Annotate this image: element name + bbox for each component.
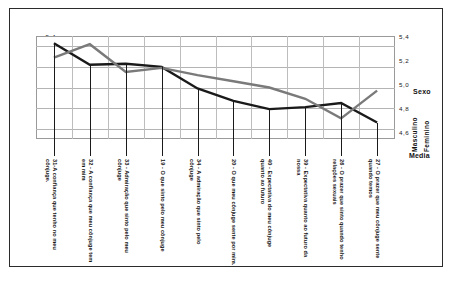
y-axis-right-tick-2: 5,0 [399,82,409,88]
category-label-5: 20 - O que meu cônjuge sente por mim. [231,159,238,267]
dropline-2 [126,64,127,156]
category-label-6: 40 - Expectativa do meu cônjuge quanto a… [260,159,274,267]
category-label-1: 32 - A confiança que meu cônjuge tem em … [80,159,94,267]
dropline-9 [377,123,378,157]
y-axis-right-tick-1: 5,2 [399,58,409,64]
category-label-0: 31-A confiança que tenho no meu cônjuge. [44,159,58,267]
legend-title: Sexo [413,88,431,95]
y-axis-right-tick-0: 5,4 [399,34,409,40]
dropline-4 [198,89,199,157]
y-axis-right-tick-4: 4,6 [399,130,409,136]
legend: Sexo Masculino Feminino Media [409,88,453,162]
dropline-7 [305,107,306,156]
category-label-2: 33 - Admiração que sinto pelo meu cônjug… [116,159,130,267]
category-label-3: 19 - O que sinto pelo meu cônjuge [159,159,166,267]
series-line-feminino [54,44,377,118]
dropline-8 [341,103,342,156]
chart-figure: 5,4 5,2 5,0 4,8 4,6 5,4 5,2 5,0 4,8 4,6 … [0,0,455,281]
dropline-1 [90,65,91,156]
dropline-0 [54,43,55,156]
y-axis-right-tick-3: 4,8 [399,106,409,112]
legend-axis-caption: Media [409,152,430,159]
legend-item-feminino[interactable]: Feminino [423,100,430,152]
dropline-6 [269,109,270,156]
category-label-7: 39 - Expectativa quanto ao futuro da nos… [296,159,310,267]
category-label-8: 26 - O prazer que sinto quando tenho rel… [331,159,345,267]
dropline-3 [162,67,163,156]
category-label-9: 27 - O prazer que meu cônjuge sente quan… [367,159,381,267]
dropline-5 [233,101,234,156]
category-label-4: 34 - A admiração que sinto pelo cônjuge [188,159,202,267]
legend-item-masculino[interactable]: Masculino [411,100,418,152]
